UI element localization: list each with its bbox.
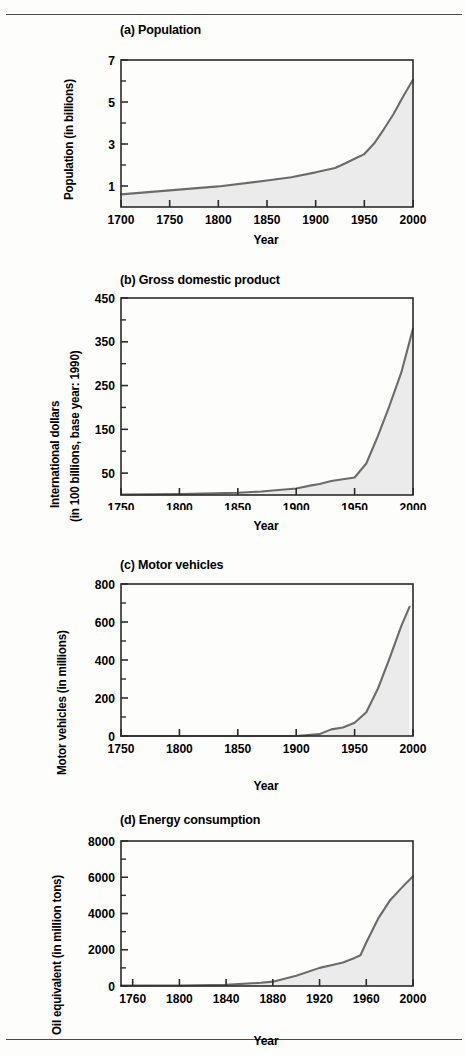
x-tick-label: 2000 — [400, 992, 427, 1006]
y-tick-label: 5 — [108, 95, 115, 109]
y-tick-label: 400 — [95, 653, 115, 667]
y-tick-label: 450 — [95, 291, 115, 305]
x-tick-label: 1750 — [108, 501, 135, 510]
panel-a-plot: 13571700175018001850190019502000 — [0, 0, 466, 225]
y-tick-label: 7 — [108, 53, 115, 67]
x-tick-label: 1800 — [166, 992, 193, 1006]
y-tick-label: 200 — [95, 691, 115, 705]
x-tick-label: 1900 — [283, 742, 310, 756]
y-tick-label: 150 — [95, 423, 115, 437]
x-tick-label: 1920 — [306, 992, 333, 1006]
y-tick-label: 4000 — [88, 907, 115, 921]
area-fill — [121, 80, 413, 207]
panel-gdp: (b) Gross domestic product International… — [0, 260, 466, 540]
x-tick-label: 1750 — [108, 742, 135, 756]
panel-population: (a) Population Population (in billions) … — [0, 0, 466, 260]
y-tick-label: 0 — [108, 979, 115, 993]
x-tick-label: 1850 — [224, 742, 251, 756]
x-tick-label: 1840 — [213, 992, 240, 1006]
panel-c-plot: 0200400600800175018001850190019502000 — [0, 540, 466, 770]
x-tick-label: 1850 — [224, 501, 251, 510]
panel-c-x-axis-label: Year — [130, 778, 402, 793]
x-tick-label: 1700 — [108, 213, 135, 225]
x-tick-label: 1850 — [254, 213, 281, 225]
x-tick-label: 1800 — [205, 213, 232, 225]
y-tick-label: 1 — [108, 179, 115, 193]
y-tick-label: 50 — [102, 466, 115, 480]
panel-d-x-axis-label: Year — [130, 1033, 402, 1048]
x-tick-label: 1800 — [166, 501, 193, 510]
panel-b-plot: 50150250350450175018001850190019502000 — [0, 260, 466, 510]
x-tick-label: 2000 — [400, 213, 427, 225]
panel-d-plot: 0200040006000800017601800184018801920196… — [0, 805, 466, 1030]
x-tick-label: 1800 — [166, 742, 193, 756]
area-fill — [121, 607, 410, 736]
x-tick-label: 1950 — [341, 742, 368, 756]
y-tick-label: 800 — [95, 577, 115, 591]
y-tick-label: 250 — [95, 379, 115, 393]
panel-energy: (d) Energy consumption Oil equivalent (i… — [0, 805, 466, 1057]
x-tick-label: 1760 — [119, 992, 146, 1006]
y-tick-label: 600 — [95, 615, 115, 629]
y-tick-label: 2000 — [88, 943, 115, 957]
panel-b-x-axis-label: Year — [130, 518, 402, 533]
area-fill — [121, 876, 413, 986]
y-tick-label: 350 — [95, 335, 115, 349]
y-tick-label: 3 — [108, 137, 115, 151]
figure-page: (a) Population Population (in billions) … — [0, 0, 466, 1057]
y-tick-label: 8000 — [88, 834, 115, 848]
panel-motor-vehicles: (c) Motor vehicles Motor vehicles (in mi… — [0, 540, 466, 805]
y-tick-label: 6000 — [88, 870, 115, 884]
x-tick-label: 2000 — [400, 742, 427, 756]
x-tick-label: 1960 — [353, 992, 380, 1006]
x-tick-label: 1950 — [341, 501, 368, 510]
x-tick-label: 1900 — [302, 213, 329, 225]
x-tick-label: 1750 — [156, 213, 183, 225]
x-tick-label: 1880 — [259, 992, 286, 1006]
x-tick-label: 1950 — [351, 213, 378, 225]
area-fill — [121, 329, 413, 495]
x-tick-label: 1900 — [283, 501, 310, 510]
panel-a-x-axis-label: Year — [130, 232, 402, 247]
x-tick-label: 2000 — [400, 501, 427, 510]
